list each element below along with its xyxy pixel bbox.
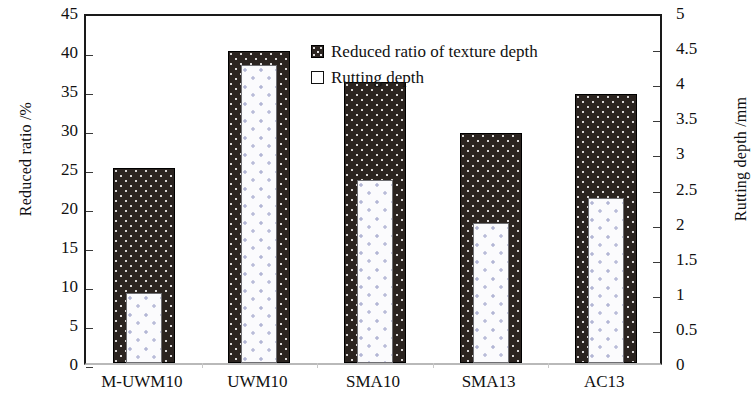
left-tick-label: 5 xyxy=(44,317,78,334)
right-tickmark xyxy=(653,51,660,52)
left-tickmark xyxy=(86,55,93,56)
legend-item-texture-depth: Reduced ratio of texture depth xyxy=(311,38,538,64)
white-square-icon xyxy=(311,71,324,84)
legend-label-rutting-depth: Rutting depth xyxy=(331,69,424,86)
left-axis-title: Reduced ratio /% xyxy=(17,69,35,249)
legend-label-texture-depth: Reduced ratio of texture depth xyxy=(331,43,538,60)
right-tickmark xyxy=(653,332,660,333)
left-tick-label: 40 xyxy=(44,44,78,61)
right-tickmark xyxy=(653,192,660,193)
dark-dotted-square-icon xyxy=(311,45,324,58)
right-axis-title: Rutting depth /mm xyxy=(732,69,750,249)
left-tick-label: 25 xyxy=(44,161,78,178)
x-tickmark xyxy=(317,363,318,368)
right-tickmark xyxy=(653,262,660,263)
legend-item-rutting-depth: Rutting depth xyxy=(311,64,538,90)
right-tickmark xyxy=(653,297,660,298)
x-tickmark xyxy=(548,363,549,368)
right-tick-label: 4 xyxy=(676,75,716,92)
right-tick-label: 5 xyxy=(676,5,716,22)
left-tick-label: 15 xyxy=(44,239,78,256)
x-axis-label-sma13: SMA13 xyxy=(431,372,547,392)
right-tick-label: 3.5 xyxy=(676,110,716,127)
left-tickmark xyxy=(86,328,93,329)
x-axis-label-sma10: SMA10 xyxy=(315,372,431,392)
bar-rutting-depth xyxy=(473,223,509,363)
bar-rutting-depth xyxy=(357,180,393,363)
x-axis-label-uwm10: UWM10 xyxy=(200,372,316,392)
bar-rutting-depth xyxy=(241,65,277,363)
bar-rutting-depth xyxy=(588,198,624,363)
right-tickmark xyxy=(653,86,660,87)
left-axis-tick-labels: 454035302520151050 xyxy=(40,0,78,409)
bar-chart: Reduced ratio /% Rutting depth /mm 45403… xyxy=(0,0,755,409)
left-tickmark xyxy=(86,172,93,173)
right-tickmark xyxy=(653,227,660,228)
left-tickmark xyxy=(86,250,93,251)
right-tick-label: 4.5 xyxy=(676,40,716,57)
left-tick-label: 10 xyxy=(44,278,78,295)
left-tickmark xyxy=(86,133,93,134)
left-tickmark xyxy=(86,211,93,212)
right-tick-label: 3 xyxy=(676,145,716,162)
right-axis-tick-labels: 54.543.532.521.510.50 xyxy=(676,0,720,409)
bar-rutting-depth xyxy=(126,293,162,363)
right-tick-label: 0.5 xyxy=(676,321,716,338)
x-tickmark xyxy=(202,363,203,368)
left-tick-label: 30 xyxy=(44,122,78,139)
x-axis-category-labels: M-UWM10UWM10SMA10SMA13AC13 xyxy=(84,372,662,402)
right-tick-label: 2 xyxy=(676,216,716,233)
right-tick-label: 2.5 xyxy=(676,181,716,198)
left-tickmark xyxy=(86,367,93,368)
left-tickmark xyxy=(86,94,93,95)
left-tick-label: 35 xyxy=(44,83,78,100)
left-tick-label: 45 xyxy=(44,5,78,22)
x-axis-label-ac13: AC13 xyxy=(546,372,662,392)
left-tickmark xyxy=(86,289,93,290)
right-tick-label: 0 xyxy=(676,356,716,373)
chart-legend: Reduced ratio of texture depth Rutting d… xyxy=(311,38,538,90)
x-tickmark xyxy=(433,363,434,368)
plot-area: Reduced ratio of texture depth Rutting d… xyxy=(84,14,662,365)
right-tickmark xyxy=(653,156,660,157)
x-axis-label-m-uwm10: M-UWM10 xyxy=(84,372,200,392)
left-tick-label: 20 xyxy=(44,200,78,217)
right-tickmark xyxy=(653,121,660,122)
left-tick-label: 0 xyxy=(44,356,78,373)
right-tick-label: 1 xyxy=(676,286,716,303)
right-tick-label: 1.5 xyxy=(676,251,716,268)
